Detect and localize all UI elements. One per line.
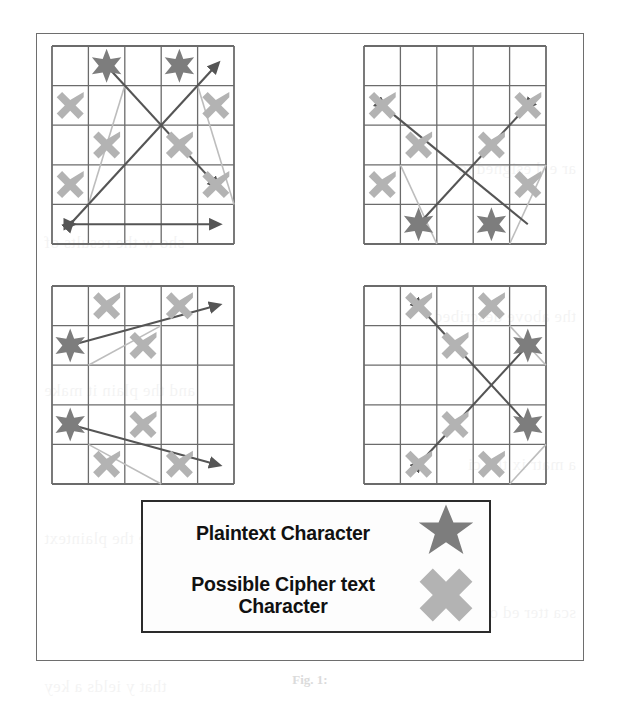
grid-bottom-right: [338, 260, 572, 510]
star-icon: [413, 500, 479, 566]
cross-x-icon: [93, 132, 120, 159]
cross-x-icon: [514, 92, 541, 119]
legend-row-plaintext: Plaintext Character: [143, 504, 489, 562]
grid-bottom-left: [26, 260, 260, 510]
legend-label-plaintext: Plaintext Character: [157, 522, 413, 544]
grid-top-right: [338, 20, 572, 270]
star-icon: [55, 408, 84, 442]
cross-x-icon: [202, 171, 229, 198]
cross-x-icon: [405, 451, 432, 478]
cross-x-icon: [369, 171, 396, 198]
legend-row-ciphertext: Possible Cipher text Character: [143, 562, 489, 628]
legend-box: Plaintext Character Possible Cipher text…: [141, 500, 491, 633]
cross-x-icon: [478, 292, 505, 319]
cross-x-icon: [442, 332, 469, 359]
cross-x-icon: [478, 451, 505, 478]
cross-x-icon: [166, 132, 193, 159]
star-icon: [165, 49, 194, 83]
cross-x-icon: [405, 292, 432, 319]
cross-x-icon: [442, 411, 469, 438]
grid-top-left: [26, 20, 260, 270]
cross-x-icon: [57, 171, 84, 198]
figure-caption: Fig. 1:: [0, 672, 620, 688]
cross-x-icon: [202, 92, 229, 119]
star-icon: [477, 207, 506, 241]
legend-label-ciphertext: Possible Cipher text Character: [157, 573, 413, 617]
cross-x-icon: [478, 132, 505, 159]
cross-x-icon: [130, 411, 157, 438]
cross-x-icon: [93, 292, 120, 319]
cross-x-icon: [369, 92, 396, 119]
star-icon: [55, 328, 84, 362]
cross-x-icon: [413, 562, 479, 628]
cross-x-icon: [57, 92, 84, 119]
